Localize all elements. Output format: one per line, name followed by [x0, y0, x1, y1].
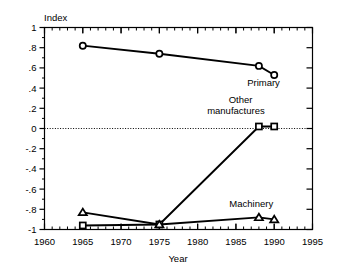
- y-tick-label: .4: [29, 83, 37, 94]
- marker-square: [80, 222, 86, 228]
- x-axis-title: Year: [168, 253, 187, 264]
- x-tick-label: 1965: [72, 236, 93, 247]
- x-tick-label: 1995: [302, 236, 323, 247]
- y-tick-label: -.8: [25, 204, 36, 215]
- index-by-year-line-chart: 19601965197019751980198519901995 1.8.6.4…: [0, 0, 346, 270]
- marker-square: [271, 123, 277, 129]
- y-tick-label: .2: [29, 103, 37, 114]
- marker-circle: [256, 63, 262, 69]
- marker-circle: [80, 43, 86, 49]
- y-tick-label: -.2: [25, 143, 36, 154]
- y-tick-label: -.6: [25, 184, 36, 195]
- x-tick-label: 1980: [187, 236, 208, 247]
- y-tick-label: 1: [31, 22, 36, 33]
- y-tick-label: .8: [29, 42, 37, 53]
- marker-circle: [156, 51, 162, 57]
- x-tick-label: 1985: [225, 236, 246, 247]
- y-axis-title: Index: [44, 12, 67, 23]
- annotation-manufactures: manufactures: [207, 105, 265, 116]
- x-tick-label: 1990: [264, 236, 285, 247]
- y-tick-label: -.4: [25, 163, 36, 174]
- y-tick-label: 0: [31, 123, 36, 134]
- y-tick-label: -1: [28, 224, 36, 235]
- annotation-machinery: Machinery: [229, 198, 273, 209]
- chart-figure: 19601965197019751980198519901995 1.8.6.4…: [0, 0, 346, 270]
- x-tick-label: 1975: [149, 236, 170, 247]
- x-tick-label: 1970: [111, 236, 132, 247]
- annotation-primary: Primary: [247, 77, 280, 88]
- annotation-other: Other: [229, 94, 253, 105]
- x-tick-label: 1960: [34, 236, 55, 247]
- marker-square: [256, 123, 262, 129]
- y-tick-label: .6: [29, 62, 37, 73]
